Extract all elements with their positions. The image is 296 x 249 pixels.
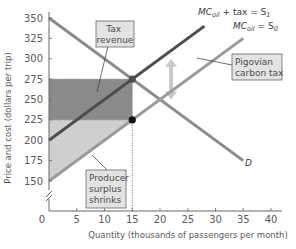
x-tick-label: 30 <box>209 214 222 225</box>
x-tick-label: 0 <box>39 214 45 225</box>
x-tick-label: 20 <box>154 214 167 225</box>
s0-curve-label: MCoil = S0 <box>233 21 278 33</box>
y-tick-label: 250 <box>24 94 43 105</box>
y-tick-label: 300 <box>24 53 43 64</box>
y-tick-label: 225 <box>24 114 43 125</box>
x-tick-label: 15 <box>126 214 139 225</box>
x-axis-title: Quantity (thousands of passengers per mo… <box>88 230 288 240</box>
x-tick-label: 35 <box>237 214 250 225</box>
y-axis-title: Price and cost (dollars per trip) <box>3 52 13 184</box>
x-tick-label: 10 <box>98 214 111 225</box>
x-tick-label: 5 <box>74 214 80 225</box>
producer-surplus-leader-line <box>92 155 107 170</box>
y-tick-label: 200 <box>24 135 43 146</box>
y-tick-label: 325 <box>24 33 43 44</box>
y-tick-label: 175 <box>24 155 43 166</box>
chart: 1501752002252502753003253500510152025303… <box>0 0 296 249</box>
x-tick-label: 40 <box>265 214 278 225</box>
y-tick-label: 275 <box>24 74 43 85</box>
y-tick-label: 150 <box>24 176 43 187</box>
y-tick-label: 350 <box>24 13 43 24</box>
equilibrium-without-tax-point <box>129 116 136 123</box>
arrow-up-head-icon <box>165 59 177 67</box>
x-tick-label: 25 <box>181 214 194 225</box>
demand-curve-label: D <box>245 158 252 168</box>
equilibrium-with-tax-point <box>129 76 136 83</box>
s1-curve-label: MCoil + tax = S1 <box>198 7 270 19</box>
tax-revenue-area <box>49 79 132 120</box>
